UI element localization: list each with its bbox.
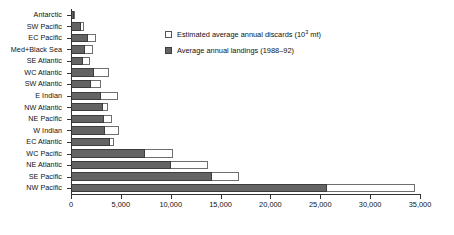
y-axis-tick-label: WC Pacific xyxy=(0,148,66,160)
y-axis-tick xyxy=(67,188,71,189)
stacked-bar xyxy=(71,45,93,53)
bar-row xyxy=(71,102,420,114)
bar-segment-landings xyxy=(71,161,171,169)
bar-segment-discards xyxy=(103,103,108,111)
legend-item-discards: Estimated average annual discards (103 m… xyxy=(165,28,321,40)
y-axis-line xyxy=(71,9,72,194)
y-axis-tick-label: NW Pacific xyxy=(0,182,66,194)
y-axis-tick-label: W Indian xyxy=(0,125,66,137)
y-axis-tick-label: E Indian xyxy=(0,90,66,102)
x-axis-tick xyxy=(71,195,72,199)
bar-segment-landings xyxy=(71,172,212,180)
bar-segment-landings xyxy=(71,126,105,134)
bar-row xyxy=(71,171,420,183)
bar-row xyxy=(71,148,420,160)
bar-segment-discards xyxy=(105,126,119,134)
x-axis-tick-label: 30,000 xyxy=(359,200,382,209)
y-axis-tick-label: SE Atlantic xyxy=(0,55,66,67)
legend-swatch-discards-icon xyxy=(165,31,172,38)
y-axis-category-labels: AntarcticSW PacificEC PacificMed+Black S… xyxy=(0,9,66,194)
bar-segment-landings xyxy=(71,92,101,100)
y-axis-tick-label: EC Atlantic xyxy=(0,136,66,148)
bar-segment-landings xyxy=(71,57,83,65)
y-axis-tick xyxy=(67,154,71,155)
y-axis-tick xyxy=(67,84,71,85)
chart-legend: Estimated average annual discards (103 m… xyxy=(165,28,321,60)
y-axis-tick-label: SE Pacific xyxy=(0,171,66,183)
bar-row xyxy=(71,113,420,125)
x-axis-tick-label: 5,000 xyxy=(112,200,131,209)
x-axis-tick xyxy=(270,195,271,199)
y-axis-tick-label: EC Pacific xyxy=(0,32,66,44)
y-axis-tick xyxy=(67,49,71,50)
bar-row xyxy=(71,125,420,137)
y-axis-tick xyxy=(67,15,71,16)
bar-segment-landings xyxy=(71,149,145,157)
bar-row xyxy=(71,9,420,21)
stacked-bar xyxy=(71,11,75,19)
bar-row xyxy=(71,67,420,79)
bar-segment-discards xyxy=(110,138,114,146)
y-axis-tick-label: NW Atlantic xyxy=(0,102,66,114)
bar-segment-discards xyxy=(212,172,239,180)
y-axis-tick xyxy=(67,26,71,27)
stacked-bar xyxy=(71,57,90,65)
bar-segment-discards xyxy=(104,115,112,123)
x-axis-tick-label: 10,000 xyxy=(159,200,182,209)
bar-segment-discards xyxy=(83,57,90,65)
y-axis-tick xyxy=(67,38,71,39)
bar-segment-landings xyxy=(71,138,110,146)
y-axis-tick xyxy=(67,142,71,143)
bar-segment-landings xyxy=(71,34,88,42)
bar-segment-discards xyxy=(88,34,96,42)
y-axis-tick-label: WC Atlantic xyxy=(0,67,66,79)
bar-segment-landings xyxy=(71,184,327,192)
y-axis-tick-label: NE Pacific xyxy=(0,113,66,125)
bar-segment-discards xyxy=(85,45,93,53)
legend-label-landings: Average annual landings (1988–92) xyxy=(177,46,294,55)
bar-row xyxy=(71,136,420,148)
y-axis-tick-label: NE Atlantic xyxy=(0,159,66,171)
x-axis-tick xyxy=(121,195,122,199)
legend-item-landings: Average annual landings (1988–92) xyxy=(165,44,321,56)
x-axis-tick-label: 15,000 xyxy=(209,200,232,209)
bar-segment-landings xyxy=(71,45,85,53)
y-axis-tick xyxy=(67,61,71,62)
x-axis-tick-label: 25,000 xyxy=(309,200,332,209)
bar-row xyxy=(71,182,420,194)
bar-row xyxy=(71,90,420,102)
bar-segment-discards xyxy=(91,80,101,88)
x-axis-tick xyxy=(370,195,371,199)
y-axis-tick xyxy=(67,73,71,74)
y-axis-tick-label: Antarctic xyxy=(0,9,66,21)
y-axis-tick xyxy=(67,119,71,120)
y-axis-tick-label: SW Atlantic xyxy=(0,78,66,90)
legend-swatch-landings-icon xyxy=(165,47,172,54)
stacked-bar xyxy=(71,184,415,192)
y-axis-tick-label: Med+Black Sea xyxy=(0,44,66,56)
stacked-bar xyxy=(71,161,208,169)
x-axis-tick xyxy=(171,195,172,199)
y-axis-tick xyxy=(67,96,71,97)
bar-segment-discards xyxy=(94,68,109,76)
bar-segment-landings xyxy=(71,22,81,30)
y-axis-tick-label: SW Pacific xyxy=(0,21,66,33)
stacked-bar xyxy=(71,126,119,134)
x-axis-tick xyxy=(420,195,421,199)
x-axis-tick xyxy=(320,195,321,199)
x-axis-tick xyxy=(221,195,222,199)
stacked-bar xyxy=(71,172,239,180)
stacked-bar xyxy=(71,34,96,42)
stacked-bar xyxy=(71,92,118,100)
stacked-bar xyxy=(71,103,108,111)
stacked-bar xyxy=(71,68,109,76)
bar-segment-discards xyxy=(327,184,415,192)
bar-row xyxy=(71,78,420,90)
bar-segment-discards xyxy=(101,92,118,100)
discards-landings-bar-chart: AntarcticSW PacificEC PacificMed+Black S… xyxy=(0,0,454,235)
bar-segment-landings xyxy=(71,103,103,111)
x-axis-line xyxy=(71,194,421,195)
x-axis-tick-label: 0 xyxy=(69,200,73,209)
x-axis-tick-label: 35,000 xyxy=(409,200,432,209)
stacked-bar xyxy=(71,80,101,88)
